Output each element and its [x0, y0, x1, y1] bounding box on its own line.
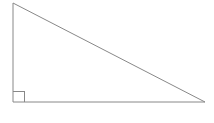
right-triangle-svg — [0, 0, 214, 123]
geometry-figure-canvas — [0, 0, 214, 123]
figure-background — [0, 0, 214, 123]
